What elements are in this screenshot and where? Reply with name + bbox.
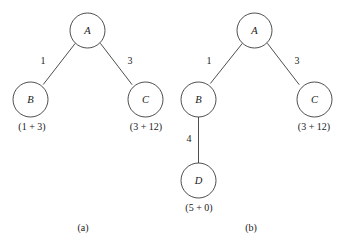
node-a-B-label: B: [27, 94, 34, 105]
edge-b-A-C-weight: 3: [295, 55, 300, 66]
panel-b-caption: (b): [245, 222, 257, 234]
edge-a-A-B: [44, 44, 75, 84]
node-a-C-label: C: [142, 94, 150, 105]
node-b-C-annotation: (3 + 12): [298, 121, 330, 133]
node-a-B-annotation: (1 + 3): [18, 121, 45, 133]
panel-b: A B C (3 + 12) D (5 + 0) 1 3 4 (b): [181, 13, 332, 234]
node-a-A-label: A: [83, 25, 91, 36]
panel-a: A B (1 + 3) C (3 + 12) 1 3 (a): [13, 13, 163, 234]
node-b-B-label: B: [195, 94, 202, 105]
edge-b-A-B: [211, 44, 242, 83]
node-b-D-annotation: (5 + 0): [185, 202, 212, 214]
figure-root: A B (1 + 3) C (3 + 12) 1 3 (a) A: [0, 0, 346, 244]
search-tree-figure: A B (1 + 3) C (3 + 12) 1 3 (a) A: [0, 0, 346, 244]
edge-a-A-C-weight: 3: [128, 55, 133, 66]
edge-a-A-B-weight: 1: [41, 55, 46, 66]
node-b-C-label: C: [311, 94, 319, 105]
edge-b-B-D-weight: 4: [187, 133, 192, 144]
node-b-D-label: D: [194, 175, 203, 186]
edge-b-A-B-weight: 1: [207, 55, 212, 66]
node-a-C-annotation: (3 + 12): [130, 121, 162, 133]
panel-a-caption: (a): [77, 222, 88, 234]
node-b-A-label: A: [250, 25, 258, 36]
